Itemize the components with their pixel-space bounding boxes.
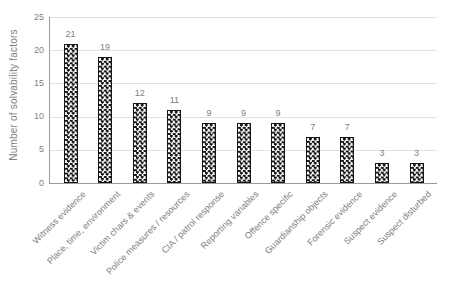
bar [237,123,251,183]
bar-value-label: 7 [332,122,362,133]
bar [306,137,320,183]
x-category-label: CIA / patrol response [159,189,226,256]
x-axis-line [49,183,437,184]
y-tick-label: 5 [20,144,44,155]
bar [271,123,285,183]
bar-value-label: 3 [402,148,432,159]
bar [340,137,354,183]
bar-value-label: 9 [263,108,293,119]
solvability-factors-bar-chart: Number of solvability factors 0510152025… [0,0,459,284]
y-tick-label: 25 [20,12,44,23]
bar-value-label: 12 [125,88,155,99]
bar [167,110,181,183]
x-category-label: Victim chars & events [89,189,157,257]
bar-value-label: 21 [56,29,86,40]
y-axis-line [49,17,50,183]
y-tick-label: 20 [20,45,44,56]
bar [133,103,147,183]
x-category-label: Guardianship objects [263,189,330,256]
gridline [49,17,437,18]
bar-value-label: 9 [229,108,259,119]
y-axis-title: Number of solvability factors [8,29,19,160]
bar-value-label: 9 [194,108,224,119]
bar-value-label: 7 [298,122,328,133]
bar-value-label: 19 [90,42,120,53]
bar [64,44,78,183]
bar [98,57,112,183]
bar [375,163,389,183]
bar-value-label: 3 [367,148,397,159]
bar-value-label: 11 [159,95,189,106]
bar [410,163,424,183]
y-tick-label: 10 [20,111,44,122]
y-tick-label: 15 [20,78,44,89]
y-tick-label: 0 [20,178,44,189]
bar [202,123,216,183]
